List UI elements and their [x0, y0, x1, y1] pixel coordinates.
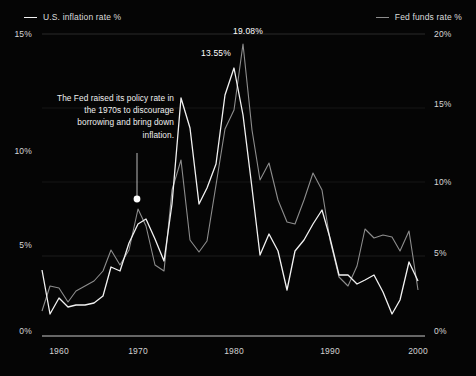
y-axis-left-tick-15: 15% [14, 29, 32, 39]
y-axis-right-tick-10: 10% [434, 177, 452, 187]
series-line-fed-funds [42, 44, 418, 311]
annotation-dot[interactable] [134, 196, 141, 203]
y-axis-right-tick-5: 5% [434, 248, 447, 258]
x-axis-tick-1980: 1980 [224, 346, 244, 356]
x-axis-tick-1990: 1990 [320, 346, 340, 356]
y-axis-right-tick-20: 20% [434, 29, 452, 39]
y-axis-right-tick-0: 0% [434, 326, 447, 336]
x-axis-tick-1970: 1970 [128, 346, 148, 356]
inflation-vs-fed-funds-chart: U.S. inflation rate % Fed funds rate % 1… [0, 0, 476, 376]
y-axis-left-tick-10: 10% [14, 146, 32, 156]
peak-label-fed-funds: 19.08% [233, 26, 263, 36]
y-axis-right-tick-15: 15% [434, 99, 452, 109]
plot-area [0, 0, 476, 376]
gridlines [42, 34, 425, 256]
y-axis-left-tick-0: 0% [19, 326, 32, 336]
annotation-text: The Fed raised its policy rate in the 19… [52, 92, 174, 141]
x-axis-tick-2000: 2000 [408, 346, 428, 356]
peak-label-inflation: 13.55% [201, 48, 231, 58]
x-axis-tick-1960: 1960 [49, 346, 69, 356]
y-axis-left-tick-5: 5% [19, 240, 32, 250]
